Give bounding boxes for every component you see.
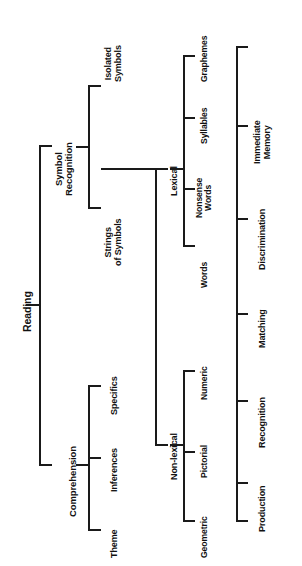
connector-nonlexical-spine [183,370,185,522]
node-pictorial: Pictorial [200,445,209,478]
connector-comprehension-bottom-arm [88,529,101,531]
connector-task-immediate-memory-tick [236,125,248,127]
connector-lexgroup-top-arm [155,168,168,170]
connector-root-bottom-arm [39,464,52,466]
connector-tasks-bottom-arm [236,520,248,522]
connector-comprehension-top-arm [88,385,101,387]
node-task-immediate-memory: Immediate Memory [253,120,272,164]
node-reading: Reading [22,291,33,332]
connector-symbol-spine [88,85,90,209]
connector-tasks-spine [236,46,238,522]
connector-inferences-tick [88,457,101,459]
node-non-lexical: Non-lexical [170,433,180,480]
node-numeric: Numeric [200,366,209,400]
connector-nonlexical-top-arm [183,370,195,372]
connector-lexical-bottom-arm [183,245,195,247]
node-symbol-recognition: Symbol Recognition [54,142,75,196]
node-comprehension: Comprehension [68,446,78,517]
connector-nonlexical-stub [170,444,184,446]
node-task-discrimination: Discrimination [258,209,268,270]
node-syllables: Syllables [200,108,209,144]
connector-lexgroup-spine [155,168,157,446]
connector-symbol-top-arm [88,85,101,87]
connector-tasks-top-arm [236,46,248,48]
node-inferences: Inferences [110,448,120,492]
connector-lexical-spine [183,55,185,247]
node-graphemes: Graphemes [200,36,209,82]
node-words: Words [200,262,209,288]
node-task-matching: Matching [258,309,268,348]
node-theme: Theme [110,529,120,558]
connector-symbol-to-lexgroup [101,168,156,170]
connector-lexical-stub [170,168,184,170]
node-isolated-symbols: Isolated Symbols [104,45,123,82]
connector-lexical-top-arm [183,55,195,57]
connector-task-discrimination-tick [236,218,248,220]
node-specifics: Specifics [110,376,120,415]
connector-root-top-arm [39,145,52,147]
connector-syllables-tick [183,117,195,119]
connector-pictorial-tick [183,451,195,453]
connector-nonlexical-bottom-arm [183,520,195,522]
connector-task-recognition-tick [236,400,248,402]
tree-diagram: Reading Symbol Recognition Comprehension… [0,0,302,566]
connector-task-production-tick [236,482,248,484]
node-nonsense-words: Nonsense Words [195,178,214,218]
connector-reading-stub [26,304,40,306]
node-lexical: Lexical [170,166,180,196]
connector-root-spine [39,145,41,466]
node-task-production: Production [258,486,268,533]
node-geometric: Geometric [200,516,209,558]
node-task-recognition: Recognition [258,397,268,448]
connector-task-matching-tick [236,313,248,315]
connector-symbol-bottom-arm [88,207,101,209]
node-strings-of-symbols: Strings of Symbols [104,218,123,266]
connector-lexgroup-bottom-arm [155,444,168,446]
